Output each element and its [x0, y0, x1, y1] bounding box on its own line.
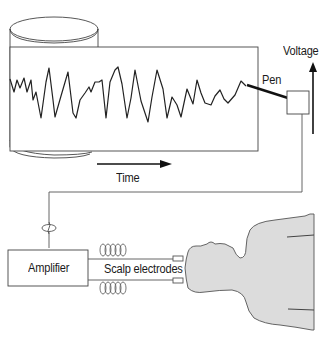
- pen-driver-box: [287, 91, 309, 114]
- amplifier-label: Amplifier: [28, 261, 69, 275]
- time-label: Time: [116, 171, 139, 185]
- voltage-arrow: [309, 62, 317, 134]
- paper-strip: [10, 47, 258, 151]
- coil-icon: [100, 282, 126, 294]
- scalp-electrodes-label: Scalp electrodes: [104, 262, 183, 276]
- pen-label: Pen: [262, 73, 281, 87]
- eeg-diagram: [0, 0, 325, 340]
- voltage-label: Voltage: [283, 44, 319, 58]
- coil-icon: [100, 244, 126, 256]
- subject-silhouette: [185, 214, 314, 330]
- time-arrow: [97, 160, 172, 168]
